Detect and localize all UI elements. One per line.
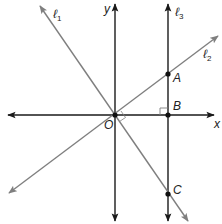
point-b-label: B xyxy=(173,99,181,113)
x-axis-label: x xyxy=(213,117,221,131)
line-l2-label: ℓ2 xyxy=(203,47,212,63)
coordinate-diagram: x y ℓ1 ℓ2 ℓ3 O A B C xyxy=(0,0,222,224)
line-l1-label: ℓ1 xyxy=(53,7,62,23)
point-o xyxy=(112,112,117,117)
point-a-label: A xyxy=(172,71,181,85)
point-c-label: C xyxy=(173,183,182,197)
line-l3-label: ℓ3 xyxy=(175,5,184,21)
point-o-label: O xyxy=(104,118,113,132)
point-b xyxy=(165,112,170,117)
point-c xyxy=(165,191,170,196)
right-angle-marker-o xyxy=(120,111,126,122)
point-a xyxy=(165,71,170,76)
y-axis-label: y xyxy=(103,2,111,16)
